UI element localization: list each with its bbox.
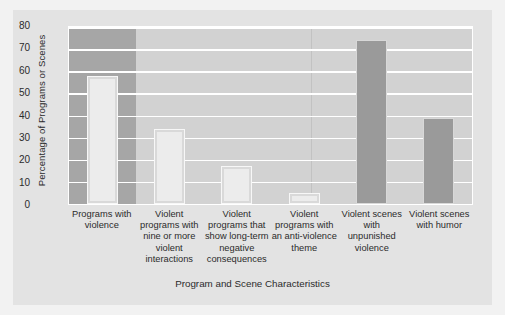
y-axis-title: Percentage of Programs or Scenes	[36, 21, 47, 201]
plot-area	[68, 26, 473, 205]
y-axis-tick-label: 0	[0, 199, 30, 210]
gridline	[69, 71, 472, 73]
y-axis-tick-label: 70	[0, 42, 30, 53]
y-axis-tick-label: 60	[0, 65, 30, 76]
x-axis-category-label: Violent programs that show long-term neg…	[203, 209, 271, 279]
gridline	[69, 182, 472, 184]
bar	[423, 118, 454, 204]
x-axis-category-label: Violent scenes with humor	[406, 209, 474, 279]
gridline	[69, 160, 472, 162]
y-axis-tick-label: 30	[0, 132, 30, 143]
gridline	[69, 27, 472, 29]
gridline	[69, 138, 472, 140]
y-axis-tick-label: 20	[0, 154, 30, 165]
bar	[154, 129, 185, 204]
x-axis-category-label: Violent programs with nine or more viole…	[136, 209, 204, 279]
bar	[87, 76, 118, 204]
x-axis-category-label: Violent scenes with unpunished violence	[338, 209, 406, 279]
gridline	[69, 49, 472, 51]
y-axis-tick-label: 80	[0, 20, 30, 31]
x-axis-categories: Programs with violenceViolent programs w…	[68, 209, 473, 279]
x-axis-category-label: Violent programs with an anti-violence t…	[271, 209, 339, 279]
y-axis-tick-label: 50	[0, 87, 30, 98]
gridline	[69, 116, 472, 118]
bar	[356, 40, 387, 204]
gridline	[69, 93, 472, 95]
bar	[221, 166, 252, 204]
y-axis-tick-label: 40	[0, 110, 30, 121]
x-axis-title: Program and Scene Characteristics	[13, 278, 492, 289]
y-axis-tick-label: 10	[0, 177, 30, 188]
bar	[289, 193, 320, 204]
x-axis-category-label: Programs with violence	[68, 209, 136, 279]
chart-figure: Percentage of Programs or Scenes 0102030…	[13, 10, 492, 305]
